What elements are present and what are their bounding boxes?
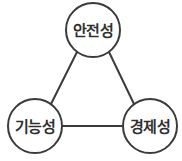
- node-economy-label: 경제성: [130, 118, 171, 136]
- triangle-diagram: 안전성 기능성 경제성: [0, 0, 182, 161]
- diagram-canvas: 안전성 기능성 경제성: [0, 0, 182, 161]
- edge-safety-functionality: [51, 52, 77, 104]
- node-safety[interactable]: 안전성: [66, 3, 120, 57]
- edge-safety-economy: [109, 52, 134, 104]
- node-functionality-label: 기능성: [15, 118, 56, 136]
- node-economy[interactable]: 경제성: [123, 99, 177, 153]
- node-functionality[interactable]: 기능성: [8, 99, 62, 153]
- node-safety-label: 안전성: [73, 22, 114, 40]
